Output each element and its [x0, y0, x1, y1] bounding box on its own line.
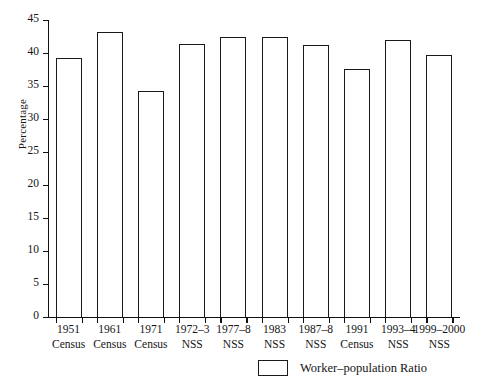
- plot-area: 051015202530354045: [48, 20, 460, 317]
- bar: [426, 55, 452, 317]
- bar-chart: Percentage 051015202530354045 1951Census…: [0, 0, 477, 388]
- chart-legend: Worker–population Ratio: [258, 360, 427, 376]
- y-axis-tick-label: 25: [28, 144, 40, 156]
- bar: [179, 44, 205, 317]
- legend-swatch-icon: [258, 360, 288, 376]
- bar: [344, 69, 370, 317]
- y-axis-tick-label: 5: [33, 276, 39, 288]
- y-axis-title: Percentage: [16, 64, 28, 184]
- bar: [56, 58, 82, 318]
- y-axis-tick-label: 20: [28, 177, 40, 189]
- bar: [97, 32, 123, 317]
- x-axis-label-period: 1999–2000: [413, 322, 466, 337]
- legend-label: Worker–population Ratio: [300, 361, 427, 376]
- x-axis-line: [48, 317, 460, 318]
- y-axis-tick-label: 35: [28, 78, 40, 90]
- x-axis-label-source: NSS: [413, 337, 466, 352]
- bars-layer: [48, 20, 460, 317]
- bar: [262, 37, 288, 317]
- bar: [385, 40, 411, 317]
- y-axis-tick-label: 30: [28, 111, 40, 123]
- y-axis-tick-label: 0: [33, 309, 39, 321]
- y-axis-tick: 0: [43, 317, 48, 318]
- y-axis-tick-label: 15: [28, 210, 40, 222]
- x-axis-label: 1999–2000NSS: [413, 322, 466, 352]
- bar: [138, 91, 164, 317]
- bar: [303, 45, 329, 317]
- y-axis-tick-label: 10: [28, 243, 40, 255]
- y-axis-tick-label: 45: [28, 12, 40, 24]
- x-axis-labels: 1951Census1961Census1971Census1972–3NSS1…: [48, 322, 460, 362]
- y-axis-tick-label: 40: [28, 45, 40, 57]
- bar: [220, 37, 246, 317]
